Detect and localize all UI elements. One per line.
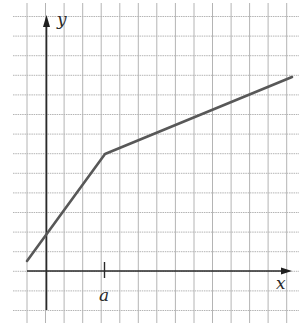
x-axis-label: x	[276, 273, 286, 293]
x-axis	[27, 268, 292, 275]
y-axis-label: y	[56, 9, 67, 29]
grid	[13, 3, 299, 323]
graph-figure: y x a	[0, 0, 299, 323]
y-axis	[43, 15, 50, 310]
a-label: a	[99, 285, 109, 305]
graph-line	[27, 77, 292, 261]
